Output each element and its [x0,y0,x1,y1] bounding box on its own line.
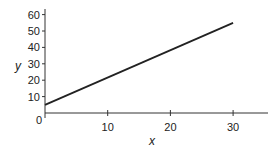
series-lines [45,23,233,105]
ticks: 102030102030405060 [28,9,239,133]
y-tick-label: 30 [28,58,40,70]
y-axis-label: y [14,59,22,73]
line-chart: 102030102030405060 x y 0 [0,0,280,153]
y-tick-label: 10 [28,91,40,103]
x-axis-label: x [148,134,156,148]
origin-label: 0 [36,114,42,126]
x-tick-label: 10 [102,121,114,133]
axes [45,9,268,118]
y-tick-label: 40 [28,41,40,53]
y-tick-label: 20 [28,74,40,86]
y-tick-label: 60 [28,9,40,21]
x-tick-label: 20 [164,121,176,133]
y-tick-label: 50 [28,25,40,37]
x-tick-label: 30 [227,121,239,133]
series-line [45,23,233,105]
